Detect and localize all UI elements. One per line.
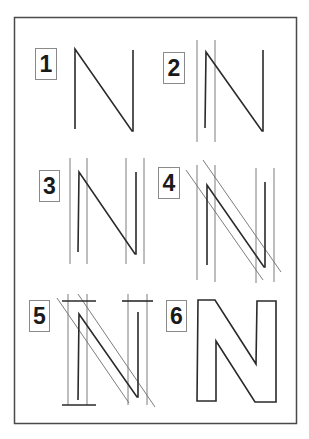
panel-5-guides bbox=[57, 294, 155, 407]
panel-4-guides bbox=[186, 160, 281, 283]
panel-6-letter bbox=[197, 300, 276, 402]
panel-6-label: 6 bbox=[166, 300, 187, 332]
panel-2-label: 2 bbox=[163, 52, 185, 84]
diagram-canvas: 1 2 3 4 5 6 bbox=[0, 0, 309, 439]
panel-3-label: 3 bbox=[39, 170, 60, 202]
panel-1-label: 1 bbox=[35, 48, 57, 80]
panel-4-label: 4 bbox=[158, 167, 180, 199]
panel-5-guide-bars bbox=[62, 301, 153, 405]
panel-2-letter bbox=[205, 50, 263, 131]
panel-1-letter bbox=[75, 49, 133, 131]
panel-5-label: 5 bbox=[29, 300, 50, 332]
